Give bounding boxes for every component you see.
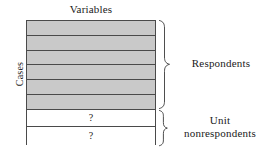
respondents-group-label: Respondents: [176, 57, 266, 70]
table-row: [27, 21, 155, 36]
unit-nonrespondents-group-label: Unit nonrespondents: [172, 114, 268, 140]
data-matrix-diagram: Variables Cases ? ?: [0, 0, 268, 152]
table-row: [27, 65, 155, 80]
table-row: [27, 95, 155, 110]
unit-nonrespondents-brace: [160, 111, 168, 146]
missing-data-mark: ?: [89, 113, 93, 123]
table-row: [27, 80, 155, 95]
table-row: [27, 51, 155, 66]
table-row: ?: [27, 127, 155, 145]
table-row: [27, 36, 155, 51]
variables-axis-title: Variables: [26, 3, 156, 16]
data-matrix: ? ?: [26, 20, 156, 145]
unit-nonrespondents-label-line-2: nonrespondents: [172, 127, 268, 140]
respondents-label-line-1: Respondents: [176, 57, 266, 70]
unit-nonrespondents-label-line-1: Unit: [172, 114, 268, 127]
respondents-brace: [160, 21, 170, 109]
cases-axis-title: Cases: [14, 49, 26, 99]
missing-data-mark: ?: [89, 131, 93, 141]
table-row: ?: [27, 110, 155, 128]
